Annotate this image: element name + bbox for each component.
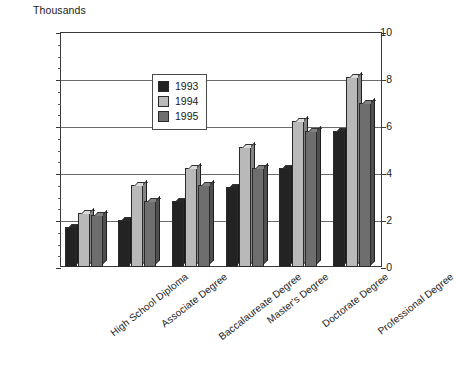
legend-item: 1993 (158, 79, 198, 94)
y-axis-minor-tick (58, 68, 61, 69)
y-axis-minor-tick (58, 256, 61, 257)
y-axis-minor-tick (58, 162, 61, 163)
y-axis-minor-tick (58, 139, 61, 140)
legend-swatch-1994 (158, 96, 169, 107)
y-gridline (61, 80, 381, 81)
y-axis-minor-tick (58, 115, 61, 116)
y-axis-major-tick (56, 174, 61, 175)
y-axis-major-tick (56, 221, 61, 222)
y-axis-minor-tick (58, 45, 61, 46)
chart-legend: 1993 1994 1995 (152, 74, 207, 130)
y-axis-tick-label: 4 (348, 167, 400, 179)
y-gridline (61, 127, 381, 128)
plot-area (60, 32, 382, 267)
y-axis-minor-tick (58, 186, 61, 187)
y-axis-minor-tick (58, 104, 61, 105)
y-axis-major-tick (56, 127, 61, 128)
y-axis-tick-label: 6 (348, 120, 400, 132)
y-axis-minor-tick (58, 92, 61, 93)
y-axis-minor-tick (58, 151, 61, 152)
legend-label-1994: 1994 (175, 96, 198, 107)
unit-axis-label: Thousands (33, 4, 86, 16)
y-axis-minor-tick (58, 57, 61, 58)
legend-label-1993: 1993 (175, 81, 198, 92)
y-axis-minor-tick (58, 209, 61, 210)
y-axis-tick-label: 8 (348, 73, 400, 85)
legend-item: 1994 (158, 94, 198, 109)
legend-swatch-1995 (158, 111, 169, 122)
legend-swatch-1993 (158, 81, 169, 92)
y-axis-tick-label: 10 (348, 26, 400, 38)
y-axis-major-tick (56, 80, 61, 81)
legend-item: 1995 (158, 109, 198, 124)
y-axis-minor-tick (58, 198, 61, 199)
y-gridline (61, 174, 381, 175)
y-gridline (61, 221, 381, 222)
y-axis-minor-tick (58, 233, 61, 234)
y-axis-major-tick (56, 33, 61, 34)
legend-label-1995: 1995 (175, 111, 198, 122)
y-axis-minor-tick (58, 245, 61, 246)
y-axis-tick-label: 2 (348, 214, 400, 226)
x-axis-category-labels: High School DiplomaAssociate DegreeBacca… (60, 267, 382, 365)
x-axis-label: Associate Degree (159, 271, 229, 329)
